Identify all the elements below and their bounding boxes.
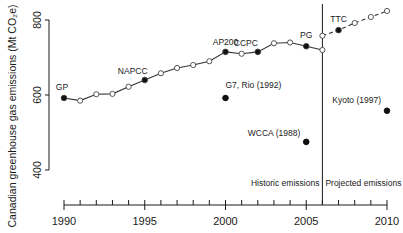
data-point xyxy=(271,41,276,46)
y-axis-label: Canadian greenhouse gas emissions (Mt CO… xyxy=(6,5,18,228)
y-tick-label: 400 xyxy=(31,161,43,179)
y-tick-label: 600 xyxy=(31,86,43,104)
event-point xyxy=(303,139,309,145)
data-point xyxy=(158,71,163,76)
data-point xyxy=(142,77,148,83)
annotation-label: PG xyxy=(300,30,312,40)
historic-label: Historic emissions xyxy=(251,178,320,188)
x-tick-label: 1995 xyxy=(133,215,157,227)
data-point xyxy=(110,91,115,96)
data-point xyxy=(207,59,212,64)
data-point xyxy=(78,98,83,103)
data-point xyxy=(288,40,293,45)
chart-canvas: 400600800 19901995200020052010 Historic … xyxy=(0,0,403,233)
data-point xyxy=(368,14,373,19)
projected-label: Projected emissions xyxy=(325,178,401,188)
annotation-label: WCCA (1988) xyxy=(248,128,301,138)
x-axis: 19901995200020052010 xyxy=(52,200,399,227)
annotation-label: NAPCC xyxy=(118,66,148,76)
x-tick-label: 2000 xyxy=(213,215,237,227)
annotation-label: TTC xyxy=(330,14,347,24)
data-point xyxy=(320,33,325,38)
event-point xyxy=(384,108,390,114)
data-point xyxy=(239,51,244,56)
data-point xyxy=(303,43,309,49)
y-axis: 400600800 xyxy=(31,11,49,179)
data-point xyxy=(352,20,357,25)
event-point xyxy=(223,95,229,101)
data-point xyxy=(126,84,131,89)
data-point xyxy=(191,62,196,67)
x-tick-label: 1990 xyxy=(52,215,76,227)
y-tick-label: 800 xyxy=(31,11,43,29)
data-point xyxy=(320,47,325,52)
data-points xyxy=(61,8,390,144)
data-point xyxy=(174,65,179,70)
data-point xyxy=(223,49,229,55)
x-tick-label: 2005 xyxy=(294,215,318,227)
annotation-label: GP xyxy=(56,82,69,92)
annotation-label: CCPC xyxy=(234,38,258,48)
data-point xyxy=(94,92,99,97)
data-point xyxy=(336,27,342,33)
data-point xyxy=(384,8,389,13)
data-point xyxy=(255,49,261,55)
data-point xyxy=(61,95,67,101)
annotation-label: Kyoto (1997) xyxy=(332,95,381,105)
x-tick-label: 2010 xyxy=(375,215,399,227)
emissions-chart: 400600800 19901995200020052010 Historic … xyxy=(0,0,403,233)
series-line xyxy=(64,43,322,101)
annotation-label: G7, Rio (1992) xyxy=(226,80,282,90)
